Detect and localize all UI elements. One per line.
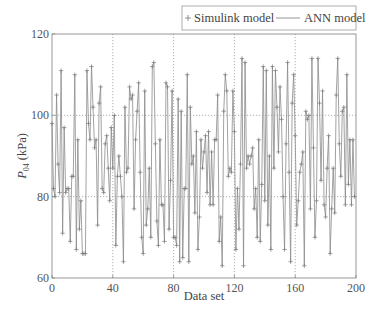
y-tick-label: 120 — [31, 27, 49, 41]
y-axis-title-symbol: P — [15, 171, 29, 180]
plus-marker-icon — [287, 170, 291, 174]
plus-marker-icon — [222, 109, 226, 113]
plus-marker-icon — [241, 264, 245, 268]
plus-marker-icon — [76, 138, 80, 142]
plus-marker-icon — [199, 138, 203, 142]
plus-marker-icon — [174, 243, 178, 247]
plus-marker-icon — [243, 60, 247, 64]
plus-marker-icon — [240, 56, 244, 60]
plus-marker-icon — [120, 194, 124, 198]
plus-marker-icon — [317, 101, 321, 105]
plus-marker-icon — [237, 227, 241, 231]
plus-marker-icon — [258, 239, 262, 243]
legend-label-simulink: Simulink model — [194, 11, 275, 25]
plus-marker-icon — [313, 235, 317, 239]
plus-marker-icon — [62, 125, 66, 129]
plus-marker-icon — [272, 166, 276, 170]
plus-marker-icon — [229, 170, 233, 174]
plus-marker-icon — [114, 243, 118, 247]
plus-marker-icon — [193, 211, 197, 215]
plus-marker-icon — [334, 93, 338, 97]
plus-marker-icon — [263, 199, 267, 203]
plus-marker-icon — [111, 166, 115, 170]
plus-marker-icon — [194, 129, 198, 133]
x-tick-label: 40 — [107, 281, 119, 295]
plus-marker-icon — [323, 215, 327, 219]
plus-marker-icon — [307, 113, 311, 117]
plus-marker-icon — [77, 227, 81, 231]
plus-marker-icon — [179, 109, 183, 113]
plus-marker-icon — [329, 207, 333, 211]
plus-marker-icon — [167, 227, 171, 231]
plus-marker-icon — [132, 207, 136, 211]
plus-marker-icon — [118, 174, 122, 178]
plus-marker-icon — [285, 60, 289, 64]
plus-marker-icon — [101, 190, 105, 194]
plus-marker-icon — [232, 129, 236, 133]
plus-marker-icon — [226, 174, 230, 178]
plus-marker-icon — [105, 133, 109, 137]
plus-marker-icon — [260, 182, 264, 186]
plus-marker-icon — [331, 166, 335, 170]
plus-marker-icon — [205, 190, 209, 194]
plus-marker-icon — [73, 72, 77, 76]
plus-marker-icon — [346, 182, 350, 186]
plus-marker-icon — [85, 68, 89, 72]
x-tick-label: 120 — [225, 281, 243, 295]
plus-marker-icon — [170, 89, 174, 93]
plus-marker-icon — [290, 101, 294, 105]
plus-marker-icon — [337, 142, 341, 146]
plus-marker-icon — [200, 166, 204, 170]
plus-marker-icon — [217, 239, 221, 243]
plus-marker-icon — [108, 199, 112, 203]
plus-marker-icon — [57, 190, 61, 194]
x-tick-label: 200 — [347, 281, 365, 295]
plus-marker-icon — [328, 251, 332, 255]
plus-marker-icon — [211, 203, 215, 207]
plus-marker-icon — [164, 81, 168, 85]
plus-marker-icon — [143, 89, 147, 93]
plus-marker-icon — [316, 56, 320, 60]
plus-marker-icon — [156, 243, 160, 247]
plus-marker-icon — [281, 194, 285, 198]
plus-marker-icon — [117, 154, 121, 158]
plus-marker-icon — [223, 72, 227, 76]
plus-marker-icon — [311, 146, 315, 150]
plus-marker-icon — [149, 235, 153, 239]
plus-marker-icon — [267, 154, 271, 158]
plus-marker-icon — [196, 247, 200, 251]
plus-marker-icon — [95, 223, 99, 227]
plus-marker-icon — [319, 178, 323, 182]
y-tick-label: 80 — [37, 190, 49, 204]
plus-marker-icon — [349, 203, 353, 207]
ann-model-line — [52, 58, 354, 265]
plus-marker-icon — [273, 68, 277, 72]
plus-marker-icon — [351, 138, 355, 142]
plus-marker-icon — [209, 150, 213, 154]
plus-marker-icon — [301, 150, 305, 154]
plus-marker-icon — [279, 117, 283, 121]
plus-marker-icon — [141, 251, 145, 255]
plus-marker-icon — [74, 247, 78, 251]
plus-marker-icon — [238, 162, 242, 166]
plus-marker-icon — [333, 211, 337, 215]
plus-marker-icon — [275, 105, 279, 109]
plus-marker-icon — [343, 203, 347, 207]
plus-marker-icon — [136, 81, 140, 85]
svg-text:P04(kPa): P04(kPa) — [15, 133, 31, 180]
plus-marker-icon — [54, 93, 58, 97]
legend: Simulink model ANN model — [182, 6, 366, 30]
plus-marker-icon — [326, 133, 330, 137]
plus-marker-icon — [98, 85, 102, 89]
y-axis-ticks: 6080100120 — [31, 27, 55, 285]
plus-marker-icon — [168, 178, 172, 182]
x-tick-label: 80 — [168, 281, 180, 295]
plus-marker-icon — [255, 235, 259, 239]
plus-marker-icon — [147, 166, 151, 170]
plus-marker-icon — [127, 85, 131, 89]
plus-marker-icon — [60, 231, 64, 235]
plus-marker-icon — [121, 260, 125, 264]
plus-marker-icon — [138, 170, 142, 174]
plus-marker-icon — [250, 146, 254, 150]
plus-marker-icon — [63, 190, 67, 194]
